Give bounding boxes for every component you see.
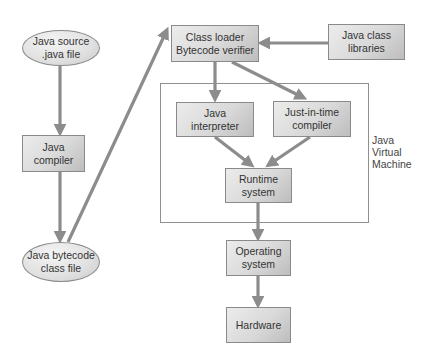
- java-bytecode-node: Java bytecode class file: [22, 242, 100, 282]
- java-compiler-node: Java compiler: [22, 135, 85, 172]
- jvm-label-line2: Virtual: [372, 146, 412, 158]
- class-loader-line1: Class loader: [176, 31, 254, 44]
- java-bytecode-line1: Java bytecode: [27, 249, 95, 262]
- java-source-node: Java source .java file: [22, 30, 100, 66]
- operating-system-line2: system: [235, 258, 281, 271]
- class-loader-line2: Bytecode verifier: [176, 44, 254, 57]
- class-loader-node: Class loader Bytecode verifier: [171, 25, 259, 62]
- java-interpreter-line2: interpreter: [191, 120, 239, 133]
- jvm-label-line1: Java: [372, 134, 412, 146]
- runtime-system-node: Runtime system: [225, 168, 292, 203]
- java-source-line2: .java file: [33, 48, 90, 61]
- jit-compiler-line2: compiler: [285, 119, 339, 132]
- class-libraries-line2: libraries: [342, 42, 391, 55]
- java-source-line1: Java source: [33, 35, 90, 48]
- jvm-label: Java Virtual Machine: [372, 134, 412, 170]
- java-interpreter-node: Java interpreter: [176, 102, 254, 137]
- java-interpreter-line1: Java: [191, 107, 239, 120]
- java-compiler-line1: Java: [34, 141, 74, 154]
- jvm-label-line3: Machine: [372, 158, 412, 170]
- jit-compiler-line1: Just-in-time: [285, 106, 339, 119]
- jit-compiler-node: Just-in-time compiler: [273, 101, 351, 137]
- operating-system-line1: Operating: [235, 245, 281, 258]
- operating-system-node: Operating system: [226, 240, 291, 276]
- java-architecture-diagram: Java Virtual Machine Java source .java f…: [0, 0, 431, 358]
- java-compiler-line2: compiler: [34, 154, 74, 167]
- runtime-system-line2: system: [239, 186, 278, 199]
- java-bytecode-line2: class file: [27, 262, 95, 275]
- class-libraries-line1: Java class: [342, 29, 391, 42]
- class-libraries-node: Java class libraries: [328, 24, 405, 60]
- hardware-label: Hardware: [236, 319, 282, 332]
- runtime-system-line1: Runtime: [239, 173, 278, 186]
- hardware-node: Hardware: [226, 307, 291, 343]
